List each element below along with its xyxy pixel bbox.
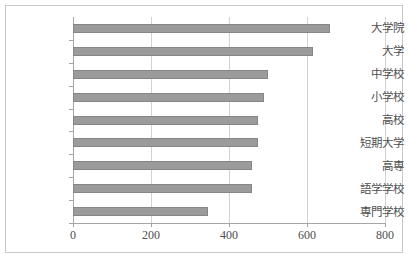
bar-5[interactable] bbox=[73, 138, 258, 147]
bar-row bbox=[73, 93, 385, 102]
bar-8[interactable] bbox=[73, 207, 208, 216]
chart-frame: 0200400600800 大学院大学中学校小学校高校短期大学高専語学学校専門学… bbox=[5, 5, 403, 253]
bar-1[interactable] bbox=[73, 47, 313, 56]
bar-row bbox=[73, 138, 385, 147]
bar-row bbox=[73, 207, 385, 216]
x-tick-label-800: 800 bbox=[376, 228, 394, 242]
y-tick-mark-7 bbox=[69, 200, 73, 201]
x-tick-mark-200 bbox=[151, 223, 152, 227]
x-tick-label-0: 0 bbox=[70, 228, 76, 242]
bar-4[interactable] bbox=[73, 116, 258, 125]
y-tick-mark-6 bbox=[69, 177, 73, 178]
bar-3[interactable] bbox=[73, 93, 264, 102]
bar-row bbox=[73, 47, 385, 56]
chart-plot-area: 0200400600800 大学院大学中学校小学校高校短期大学高専語学学校専門学… bbox=[6, 6, 404, 254]
y-tick-mark-4 bbox=[69, 131, 73, 132]
bar-6[interactable] bbox=[73, 161, 252, 170]
bar-row bbox=[73, 184, 385, 193]
y-tick-mark-0 bbox=[69, 40, 73, 41]
x-tick-mark-0 bbox=[73, 223, 74, 227]
bar-row bbox=[73, 70, 385, 79]
x-tick-label-400: 400 bbox=[220, 228, 238, 242]
bar-0[interactable] bbox=[73, 24, 330, 33]
x-tick-mark-400 bbox=[229, 223, 230, 227]
bar-row bbox=[73, 116, 385, 125]
y-tick-mark-3 bbox=[69, 109, 73, 110]
bar-row bbox=[73, 24, 385, 33]
x-tick-mark-600 bbox=[307, 223, 308, 227]
x-tick-label-200: 200 bbox=[142, 228, 160, 242]
y-tick-mark-5 bbox=[69, 154, 73, 155]
y-tick-mark-8 bbox=[69, 223, 73, 224]
bar-7[interactable] bbox=[73, 184, 252, 193]
x-tick-mark-800 bbox=[385, 223, 386, 227]
y-tick-mark-1 bbox=[69, 63, 73, 64]
bar-2[interactable] bbox=[73, 70, 268, 79]
x-tick-label-600: 600 bbox=[298, 228, 316, 242]
bar-row bbox=[73, 161, 385, 170]
y-tick-mark-2 bbox=[69, 86, 73, 87]
